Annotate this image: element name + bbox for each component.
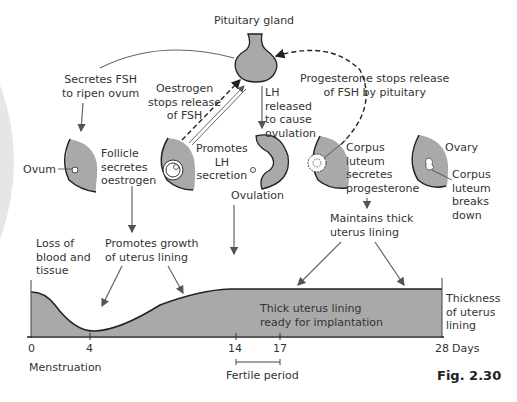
- corpus-luteum-secretes-label: Corpus luteum secretes progesterone: [346, 141, 419, 195]
- maintain-arrow-left: [298, 242, 341, 285]
- promotes-lh-label: Promotes LH secretion: [196, 142, 248, 183]
- maintain-arrow-right: [375, 242, 404, 285]
- maintains-lining-label: Maintains thick uterus lining: [330, 212, 413, 239]
- ovulation-label: Ovulation: [231, 189, 284, 203]
- oestrogen-stops-label: Oestrogen stops release of FSH: [148, 82, 221, 123]
- loss-of-blood-label: Loss of blood and tissue: [36, 237, 91, 278]
- tick-28: 28: [435, 342, 449, 356]
- pituitary-gland-label: Pituitary gland: [214, 14, 294, 28]
- ovum-label: Ovum: [23, 163, 56, 177]
- fertile-period-label: Fertile period: [226, 369, 299, 383]
- corpus-luteum-breaks-label: Corpus luteum breaks down: [452, 168, 491, 222]
- pituitary-gland-shape: [235, 34, 277, 82]
- ovary-follicle-shape: [66, 139, 98, 193]
- tick-0: 0: [28, 342, 35, 356]
- thick-lining-label: Thick uterus lining ready for implantati…: [260, 302, 383, 329]
- ovary-label: Ovary: [445, 141, 478, 155]
- ovulation-shape: [256, 135, 288, 189]
- tick-4: 4: [86, 342, 93, 356]
- fsh-down-arrow: [81, 103, 83, 131]
- days-unit-label: Days: [452, 342, 479, 356]
- figure-label: Fig. 2.30: [437, 369, 501, 383]
- menstruation-label: Menstruation: [29, 361, 102, 375]
- progesterone-stops-label: Progesterone stops release of FSH by pit…: [300, 72, 449, 99]
- thickness-label: Thickness of uterus lining: [446, 292, 500, 333]
- fsh-curve-arrow: [100, 50, 234, 68]
- growth-arrow-left: [102, 266, 122, 306]
- ovum-dot: [72, 167, 78, 173]
- released-ovum-dot: [251, 168, 256, 173]
- follicle-secretes-label: Follicle secretes oestrogen: [101, 147, 156, 188]
- promotes-growth-label: Promotes growth of uterus lining: [105, 237, 198, 264]
- secretes-fsh-label: Secretes FSH to ripen ovum: [62, 73, 139, 100]
- growth-arrow-right: [168, 266, 183, 293]
- tick-14: 14: [228, 342, 242, 356]
- tick-17: 17: [273, 342, 287, 356]
- fertile-period-bracket: [236, 359, 280, 365]
- page-edge-shape: [0, 85, 14, 240]
